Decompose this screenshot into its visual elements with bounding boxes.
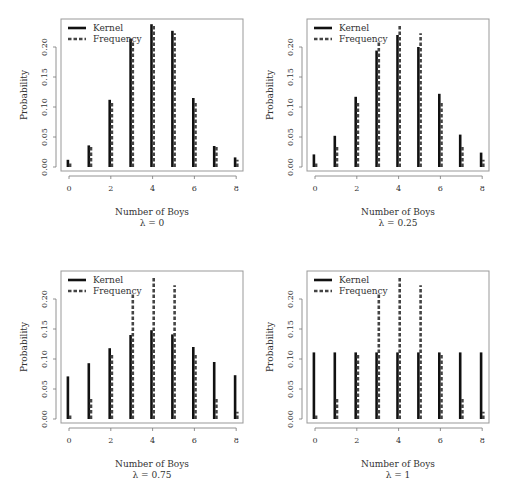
x-axis-title: Number of Boys bbox=[361, 459, 435, 469]
y-tick-label: 0.15 bbox=[286, 68, 295, 86]
x-tick-label: 8 bbox=[480, 184, 485, 193]
x-axis-title: Number of Boys bbox=[115, 459, 189, 469]
y-tick-label: 0.00 bbox=[286, 410, 295, 428]
legend-label: Frequency bbox=[339, 34, 389, 44]
y-tick-label: 0.10 bbox=[286, 98, 295, 116]
x-tick-label: 6 bbox=[192, 184, 197, 193]
x-tick-label: 8 bbox=[234, 184, 239, 193]
x-tick-label: 6 bbox=[438, 436, 443, 445]
legend: KernelFrequency bbox=[68, 23, 143, 44]
legend-label: Kernel bbox=[339, 23, 369, 33]
chart-panel-4: 024680.000.050.100.150.20ProbabilityNumb… bbox=[265, 271, 489, 480]
y-tick-label: 0.10 bbox=[286, 350, 295, 368]
legend-label: Frequency bbox=[93, 286, 143, 296]
x-tick-label: 4 bbox=[150, 184, 155, 193]
y-axis-title: Probability bbox=[265, 321, 275, 372]
y-tick-label: 0.00 bbox=[40, 410, 49, 428]
legend-label: Kernel bbox=[93, 23, 123, 33]
x-tick-label: 6 bbox=[192, 436, 197, 445]
x-tick-label: 2 bbox=[354, 184, 359, 193]
chart-subtitle: λ = 0.75 bbox=[132, 470, 171, 480]
y-axis-title: Probability bbox=[19, 69, 29, 120]
y-tick-label: 0.20 bbox=[40, 290, 49, 308]
chart-subtitle: λ = 0.25 bbox=[378, 218, 417, 228]
chart-grid: 024680.000.050.100.150.20ProbabilityNumb… bbox=[0, 0, 506, 497]
x-tick-label: 6 bbox=[438, 184, 443, 193]
legend: KernelFrequency bbox=[314, 23, 389, 44]
y-tick-label: 0.00 bbox=[40, 158, 49, 176]
legend: KernelFrequency bbox=[68, 275, 143, 296]
x-tick-label: 0 bbox=[66, 436, 71, 445]
x-tick-label: 2 bbox=[354, 436, 359, 445]
x-tick-label: 0 bbox=[312, 436, 317, 445]
y-axis-title: Probability bbox=[265, 69, 275, 120]
legend-label: Kernel bbox=[93, 275, 123, 285]
y-tick-label: 0.20 bbox=[286, 290, 295, 308]
chart-subtitle: λ = 1 bbox=[386, 470, 411, 480]
chart-panel-3: 024680.000.050.100.150.20ProbabilityNumb… bbox=[19, 271, 243, 480]
x-tick-label: 0 bbox=[66, 184, 71, 193]
x-tick-label: 8 bbox=[480, 436, 485, 445]
y-tick-label: 0.05 bbox=[286, 380, 295, 398]
chart-subtitle: λ = 0 bbox=[140, 218, 165, 228]
x-axis-title: Number of Boys bbox=[361, 207, 435, 217]
chart-panel-1: 024680.000.050.100.150.20ProbabilityNumb… bbox=[19, 19, 243, 228]
x-tick-label: 8 bbox=[234, 436, 239, 445]
x-tick-label: 2 bbox=[108, 184, 113, 193]
y-tick-label: 0.00 bbox=[286, 158, 295, 176]
legend-label: Frequency bbox=[339, 286, 389, 296]
x-tick-label: 2 bbox=[108, 436, 113, 445]
legend-label: Kernel bbox=[339, 275, 369, 285]
x-tick-label: 4 bbox=[396, 184, 401, 193]
y-axis-title: Probability bbox=[19, 321, 29, 372]
y-tick-label: 0.15 bbox=[40, 68, 49, 86]
x-tick-label: 4 bbox=[150, 436, 155, 445]
x-tick-label: 4 bbox=[396, 436, 401, 445]
y-tick-label: 0.20 bbox=[40, 38, 49, 56]
y-tick-label: 0.15 bbox=[286, 320, 295, 338]
y-tick-label: 0.05 bbox=[40, 380, 49, 398]
legend-label: Frequency bbox=[93, 34, 143, 44]
y-tick-label: 0.20 bbox=[286, 38, 295, 56]
x-axis-title: Number of Boys bbox=[115, 207, 189, 217]
y-tick-label: 0.15 bbox=[40, 320, 49, 338]
x-tick-label: 0 bbox=[312, 184, 317, 193]
y-tick-label: 0.10 bbox=[40, 350, 49, 368]
y-tick-label: 0.05 bbox=[286, 128, 295, 146]
y-tick-label: 0.05 bbox=[40, 128, 49, 146]
y-tick-label: 0.10 bbox=[40, 98, 49, 116]
chart-panel-2: 024680.000.050.100.150.20ProbabilityNumb… bbox=[265, 19, 489, 228]
legend: KernelFrequency bbox=[314, 275, 389, 296]
